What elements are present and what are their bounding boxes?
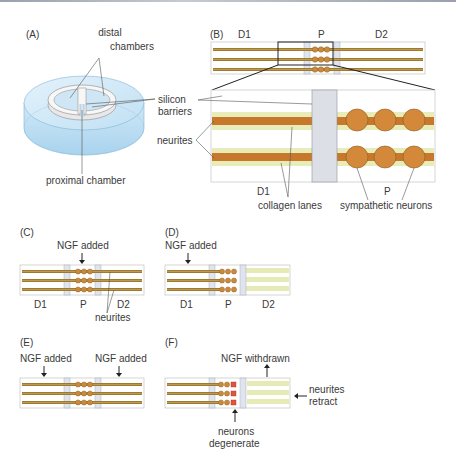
panel-f-neurons-degenerate-2: degenerate: [209, 438, 260, 449]
panel-f-chamber: [165, 378, 290, 408]
chamber-overview: [211, 42, 425, 74]
panel-d: (D) NGF added D1 P D2: [165, 227, 290, 310]
panel-b-d2-label: D2: [375, 29, 388, 40]
panel-f-neurites-retract-2: retract: [309, 396, 338, 407]
panel-d-chamber: [165, 265, 290, 295]
panel-c-arrow: [79, 253, 85, 264]
panel-d-arrow: [185, 253, 191, 264]
silicon-barriers-label-1: silicon: [158, 94, 186, 105]
panel-d-p: P: [225, 299, 232, 310]
zoom-p-label: P: [384, 186, 391, 197]
panel-c-chamber: [20, 265, 144, 295]
panel-e-arrow-right: [116, 366, 122, 377]
neurites-label: neurites: [157, 135, 193, 146]
panel-c-d1: D1: [34, 299, 47, 310]
chamber-zoom: [211, 90, 435, 182]
panel-b-d1-label: D1: [238, 29, 251, 40]
panel-f: (F) NGF withdrawn: [165, 337, 345, 449]
panel-e-arrow-left: [41, 366, 47, 377]
figure-canvas: (A) distal chambers silicon barrie: [0, 0, 456, 465]
degenerating-neurons: [231, 382, 236, 405]
panel-c-label: (C): [20, 227, 34, 238]
panel-e-label: (E): [20, 337, 33, 348]
panel-d-d2: D2: [262, 299, 275, 310]
panel-f-label: (F): [165, 337, 178, 348]
panel-f-degenerate-arrow: [232, 409, 238, 422]
distal-chambers-label-2: chambers: [110, 41, 154, 52]
panel-e-chamber: [20, 378, 144, 408]
panel-b-label: (B): [210, 29, 223, 40]
panel-b-p-label: P: [318, 29, 325, 40]
panel-c-p: P: [80, 299, 87, 310]
proximal-chamber-label: proximal chamber: [46, 175, 126, 186]
panel-d-label: (D): [165, 227, 179, 238]
panel-e-ngf-added-left: NGF added: [20, 353, 72, 364]
panel-d-d1: D1: [180, 299, 193, 310]
panel-b: (B) D1 P D2: [157, 29, 435, 211]
panel-f-withdrawn-arrow: [264, 364, 270, 377]
collagen-lanes-label: collagen lanes: [258, 200, 322, 211]
panel-f-retract-arrow: [294, 393, 307, 399]
panel-f-neurites-retract-1: neurites: [309, 384, 345, 395]
panel-a: (A) distal chambers silicon barrie: [24, 27, 192, 186]
zoom-d1-label: D1: [257, 186, 270, 197]
panel-a-label: (A): [26, 29, 39, 40]
panel-f-ngf-withdrawn: NGF withdrawn: [221, 353, 290, 364]
panel-c: (C) NGF added D1 P D2 neurites: [20, 227, 144, 323]
panel-d-ngf-added: NGF added: [165, 240, 217, 251]
panel-c-ngf-added: NGF added: [57, 240, 109, 251]
panel-e: (E) NGF added NGF added: [20, 337, 147, 408]
panel-f-neurons-degenerate-1: neurons: [218, 426, 254, 437]
distal-chambers-label-1: distal: [98, 27, 121, 38]
sympathetic-neurons-label: sympathetic neurons: [340, 200, 432, 211]
panel-c-d2: D2: [117, 299, 130, 310]
panel-c-neurites: neurites: [95, 312, 131, 323]
silicon-barriers-label-2: barriers: [158, 106, 192, 117]
panel-e-ngf-added-right: NGF added: [95, 353, 147, 364]
